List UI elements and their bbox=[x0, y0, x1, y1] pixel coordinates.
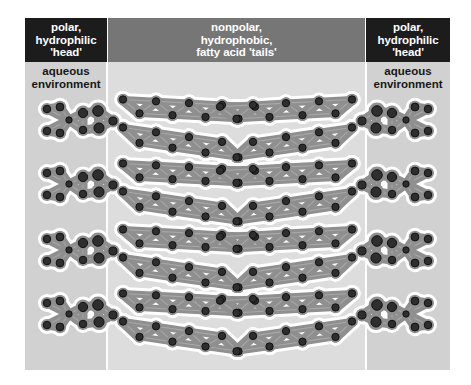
header-right-line1: polar, bbox=[378, 21, 439, 34]
header-band-left-polar-head: polar, hydrophilic 'head' bbox=[25, 18, 107, 62]
aqueous-label-left: aqueous environment bbox=[25, 65, 107, 90]
aqueous-right-line2: environment bbox=[366, 78, 450, 91]
center-hydrophobic-column bbox=[107, 18, 366, 370]
header-right-line3: 'head' bbox=[378, 46, 439, 59]
header-band-right-polar-head: polar, hydrophilic 'head' bbox=[366, 18, 450, 62]
aqueous-left-line1: aqueous bbox=[25, 65, 107, 78]
header-center-line3: fatty acid 'tails' bbox=[196, 46, 276, 59]
aqueous-left-line2: environment bbox=[25, 78, 107, 91]
header-left-line1: polar, bbox=[36, 21, 97, 34]
header-left-line3: 'head' bbox=[36, 46, 97, 59]
header-center-line1: nonpolar, bbox=[196, 21, 276, 34]
header-band-center-nonpolar-tails: nonpolar, hydrophobic, fatty acid 'tails… bbox=[108, 18, 365, 62]
aqueous-right-line1: aqueous bbox=[366, 65, 450, 78]
aqueous-label-right: aqueous environment bbox=[366, 65, 450, 90]
header-right-line2: hydrophilic bbox=[378, 34, 439, 47]
phospholipid-bilayer-figure: polar, hydrophilic 'head' nonpolar, hydr… bbox=[25, 18, 450, 370]
header-left-line2: hydrophilic bbox=[36, 34, 97, 47]
header-center-line2: hydrophobic, bbox=[196, 34, 276, 47]
